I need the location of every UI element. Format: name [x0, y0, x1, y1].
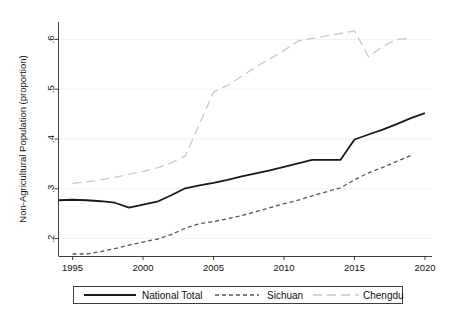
series-line-national-total [59, 113, 425, 208]
x-tick-label: 2015 [344, 262, 365, 273]
y-axis-ticks-group: .2.3.4.5.6 [45, 35, 58, 242]
x-tick-label: 2005 [203, 262, 224, 273]
gridlines-group [59, 39, 433, 238]
chart-legend: National TotalSichuanChengdu [74, 287, 404, 304]
legend-label-sichuan: Sichuan [267, 290, 303, 301]
series-line-chengdu [73, 31, 411, 183]
legend-label-national-total: National Total [142, 290, 202, 301]
series-line-sichuan [73, 155, 411, 254]
legend-label-chengdu: Chengdu [363, 290, 404, 301]
y-tick-label: .5 [45, 85, 56, 93]
y-tick-label: .6 [45, 35, 56, 43]
y-tick-label: .4 [45, 135, 56, 143]
x-axis-ticks-group: 199520002005201020152020 [62, 256, 435, 273]
x-tick-label: 2000 [132, 262, 153, 273]
y-tick-label: .2 [45, 235, 56, 243]
x-tick-label: 2020 [414, 262, 435, 273]
data-series-group [59, 31, 425, 254]
y-tick-label: .3 [45, 185, 56, 193]
y-axis-title: Non-Agricultural Population (proportion) [17, 55, 28, 222]
chart-figure: .2.3.4.5.6 199520002005201020152020 Non-… [0, 0, 452, 328]
x-tick-label: 1995 [62, 262, 83, 273]
line-chart-canvas: .2.3.4.5.6 199520002005201020152020 Non-… [0, 0, 452, 328]
x-tick-label: 2010 [273, 262, 294, 273]
